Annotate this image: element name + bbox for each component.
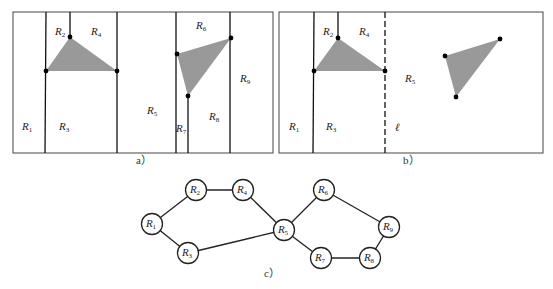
region-label-r7: R7 [175, 122, 187, 136]
triangle-obstacle-1 [46, 37, 117, 71]
graph-edge-r3-r5 [188, 230, 284, 253]
diagram-canvas: R1R2R3R4R5R6R7R8R9 a） R1R2R3R4R5 ℓ b） R1… [0, 0, 553, 289]
panel-c: R1R2R3R4R5R6R7R8R9 c） [142, 180, 400, 280]
caption-c: c） [264, 267, 280, 279]
graph-node-r2: R2 [186, 180, 207, 201]
triangle-obstacle-2 [177, 38, 231, 96]
panel-a: R1R2R3R4R5R6R7R8R9 a） [13, 12, 273, 166]
region-label-r2: R2 [54, 25, 66, 39]
region-label-r5: R5 [146, 104, 158, 118]
panel-a-frame [13, 12, 273, 153]
region-label-r3: R3 [58, 120, 70, 134]
graph-node-r7: R7 [311, 248, 332, 269]
region-label-r4: R4 [358, 25, 370, 39]
graph-node-r3: R3 [178, 243, 199, 264]
region-label-r4: R4 [90, 25, 102, 39]
region-label-r1: R1 [21, 120, 33, 134]
caption-a: a） [136, 154, 152, 166]
graph-edge-r6-r9 [324, 190, 389, 227]
panel-b: R1R2R3R4R5 ℓ b） [279, 12, 543, 166]
triangle-obstacle-2 [445, 39, 500, 97]
graph-node-r5: R5 [274, 220, 295, 241]
region-label-r9: R9 [239, 72, 251, 86]
graph-node-r8: R8 [360, 248, 381, 269]
graph-node-r9: R9 [379, 217, 400, 238]
caption-b: b） [403, 154, 420, 166]
region-label-r2: R2 [322, 25, 334, 39]
region-label-r3: R3 [325, 120, 337, 134]
region-label-r5: R5 [404, 72, 416, 86]
region-label-r6: R6 [195, 19, 207, 33]
graph-node-r4: R4 [233, 180, 254, 201]
region-label-r8: R8 [208, 110, 220, 124]
graph-node-r6: R6 [314, 180, 335, 201]
sweep-line-label: ℓ [395, 121, 400, 133]
region-label-r1: R1 [288, 120, 300, 134]
graph-node-r1: R1 [142, 214, 163, 235]
triangle-obstacle-1 [314, 38, 385, 71]
